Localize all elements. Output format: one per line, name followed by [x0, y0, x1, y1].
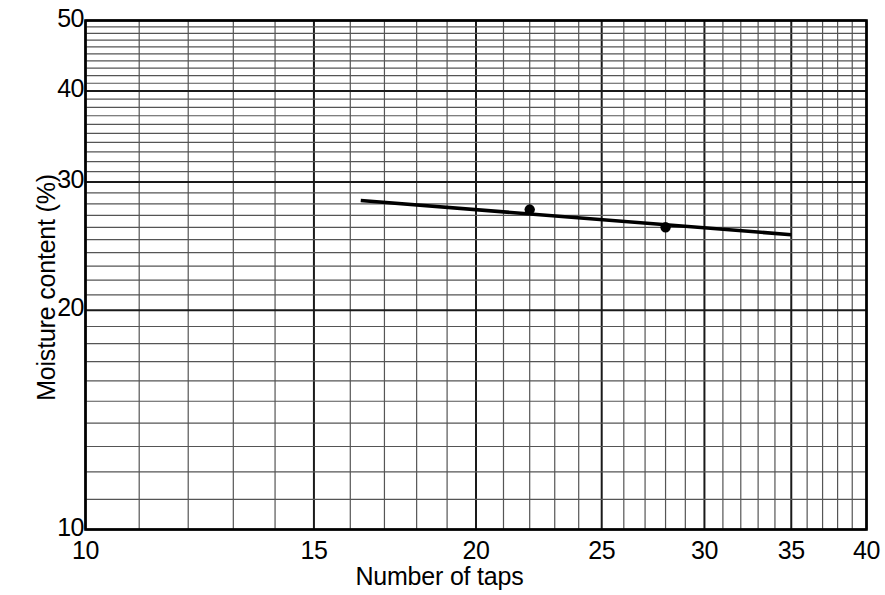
flow-line — [361, 201, 792, 235]
